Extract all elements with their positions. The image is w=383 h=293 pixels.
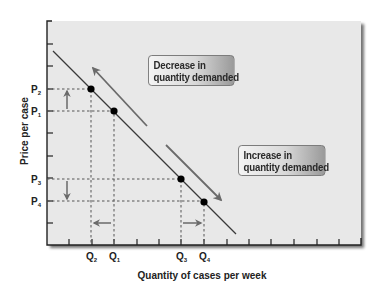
- point-p3-q3: [177, 175, 184, 182]
- point-p4-q4: [200, 198, 207, 205]
- label-p1: P1: [31, 106, 42, 118]
- x-tick-labels: Q2 Q1 Q3 Q4: [86, 251, 211, 263]
- decrease-callout-line1: Decrease in: [154, 59, 229, 71]
- label-q1: Q1: [109, 251, 121, 263]
- y-axis-title: Price per case: [19, 97, 30, 165]
- increase-callout-line1: Increase in: [244, 149, 319, 161]
- label-q3: Q3: [176, 251, 188, 263]
- x-axis-title: Quantity of cases per week: [138, 270, 267, 281]
- label-p3: P3: [31, 174, 42, 186]
- increase-callout-line2: quantity demanded: [244, 161, 319, 173]
- label-q2: Q2: [86, 251, 98, 263]
- decrease-callout: Decrease in quantity demanded: [148, 55, 234, 86]
- increase-callout: Increase in quantity demanded: [238, 145, 325, 176]
- decrease-callout-line2: quantity demanded: [154, 71, 229, 83]
- point-p2-q2: [87, 85, 94, 92]
- demand-curve-figure: P2 P1 P3 P4 Q2 Q1 Q3 Q4 Price per case Q…: [0, 0, 383, 293]
- label-p4: P4: [31, 196, 42, 208]
- chart-svg: P2 P1 P3 P4 Q2 Q1 Q3 Q4 Price per case Q…: [0, 0, 383, 293]
- label-q4: Q4: [199, 251, 211, 263]
- y-tick-labels: P2 P1 P3 P4: [31, 84, 42, 208]
- label-p2: P2: [31, 84, 42, 96]
- point-p1-q1: [110, 107, 117, 114]
